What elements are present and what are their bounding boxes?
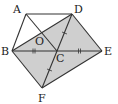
label-e: E — [104, 45, 112, 58]
label-f: F — [38, 92, 46, 104]
geometry-diagram: A D B O C E F — [0, 0, 118, 104]
label-b: B — [1, 45, 9, 58]
label-c: C — [56, 52, 64, 65]
label-a: A — [12, 3, 22, 16]
label-o: O — [35, 35, 44, 48]
label-d: D — [74, 3, 83, 16]
